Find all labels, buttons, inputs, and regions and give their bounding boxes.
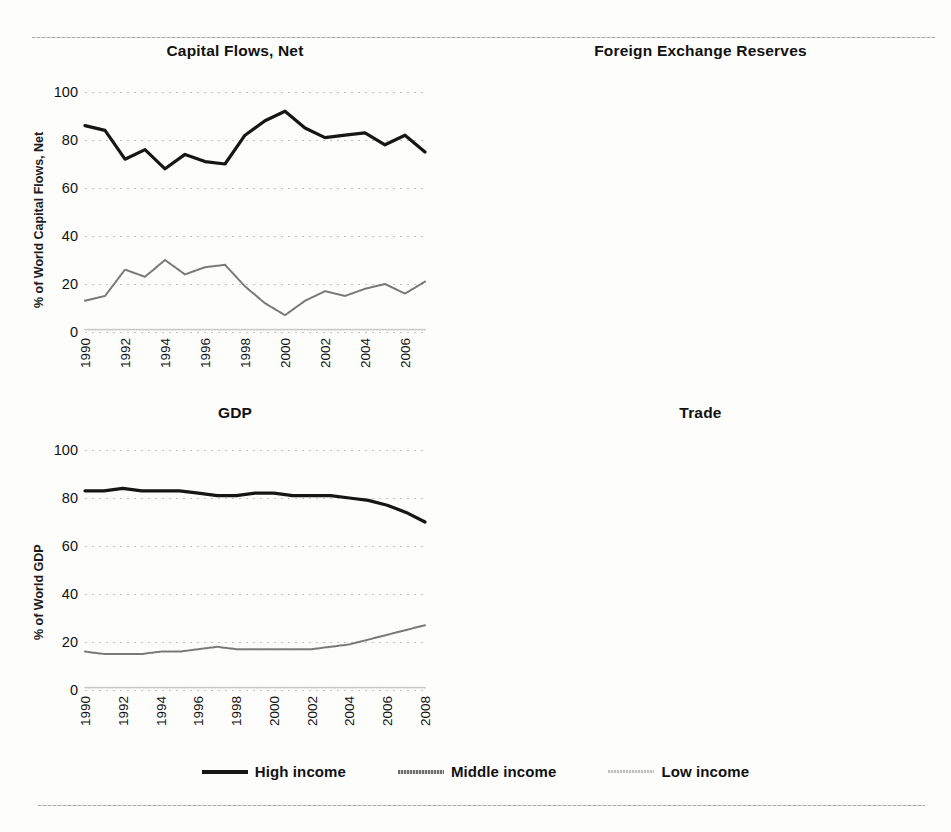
series-line-high-income xyxy=(85,488,425,522)
x-axis-tick-label: 1996 xyxy=(191,696,206,726)
legend-swatch-line-icon xyxy=(202,770,248,774)
x-axis-tick-label: 1990 xyxy=(78,696,93,726)
chart-title: Capital Flows, Net xyxy=(0,42,470,60)
gridline xyxy=(85,332,425,333)
x-axis-tick-label: 2004 xyxy=(358,338,373,368)
x-axis-tick-label: 1994 xyxy=(158,338,173,368)
legend-item-middle-income[interactable]: Middle income xyxy=(398,763,556,780)
y-axis-tick-label: 60 xyxy=(62,180,78,196)
plot-canvas: 0204060801001990199219941996199820002002… xyxy=(85,450,425,690)
figure-root: Capital Flows, Net % of World Capital Fl… xyxy=(0,0,951,832)
y-axis-tick-label: 40 xyxy=(62,586,78,602)
x-axis-tick-label: 2006 xyxy=(398,338,413,368)
plot-area: 0204060801001990199219941996199820002002… xyxy=(85,450,425,690)
y-axis-tick-label: 60 xyxy=(62,538,78,554)
legend-label: High income xyxy=(255,763,346,780)
top-divider-rule xyxy=(32,37,935,38)
y-axis-tick-label: 100 xyxy=(54,84,78,100)
x-axis-tick-label: 1992 xyxy=(115,696,130,726)
series-line-middle-income xyxy=(85,625,425,654)
y-axis-tick-label: 100 xyxy=(54,442,78,458)
y-axis-label: % of World GDP xyxy=(32,544,46,640)
plot-canvas: 0204060801001990199219941996199820002002… xyxy=(85,92,425,332)
x-axis-tick-label: 1994 xyxy=(153,696,168,726)
x-axis-tick-label: 2000 xyxy=(266,696,281,726)
chart-panel-gdp: GDP % of World GDP 020406080100199019921… xyxy=(0,402,470,752)
y-axis-tick-label: 80 xyxy=(62,490,78,506)
chart-title: GDP xyxy=(0,404,470,422)
chart-panel-fx-reserves: Foreign Exchange Reserves % of World Res… xyxy=(470,40,951,405)
x-axis-tick-label: 1998 xyxy=(238,338,253,368)
chart-legend: High income Middle income Low income xyxy=(0,763,951,780)
x-axis-tick-label: 1992 xyxy=(118,338,133,368)
x-axis-tick-label: 2004 xyxy=(342,696,357,726)
series-layer xyxy=(85,92,425,332)
series-line-middle-income xyxy=(85,260,425,315)
legend-label: Middle income xyxy=(451,763,556,780)
y-axis-tick-label: 20 xyxy=(62,634,78,650)
gridline xyxy=(85,690,425,691)
series-line-high-income xyxy=(85,111,425,169)
x-axis-tick-label: 1998 xyxy=(229,696,244,726)
chart-grid: Capital Flows, Net % of World Capital Fl… xyxy=(0,40,951,755)
x-axis-tick-label: 1996 xyxy=(198,338,213,368)
y-axis-tick-label: 40 xyxy=(62,228,78,244)
plot-area: 0204060801001990199219941996199820002002… xyxy=(85,92,425,332)
bottom-divider-rule xyxy=(38,805,925,806)
chart-panel-capital-flows: Capital Flows, Net % of World Capital Fl… xyxy=(0,40,470,405)
x-axis-tick-label: 2002 xyxy=(304,696,319,726)
x-axis-tick-label: 1990 xyxy=(78,338,93,368)
chart-title: Trade xyxy=(460,404,941,422)
y-axis-label: % of World Capital Flows, Net xyxy=(32,132,46,308)
legend-swatch-line-icon xyxy=(398,770,444,774)
y-axis-tick-label: 80 xyxy=(62,132,78,148)
x-axis-tick-label: 2006 xyxy=(380,696,395,726)
chart-panel-trade: Trade % of World Trade 02040608010019901… xyxy=(470,402,951,752)
series-layer xyxy=(85,450,425,690)
chart-title: Foreign Exchange Reserves xyxy=(460,42,941,60)
x-axis-tick-label: 2000 xyxy=(278,338,293,368)
legend-item-low-income[interactable]: Low income xyxy=(608,763,749,780)
legend-item-high-income[interactable]: High income xyxy=(202,763,346,780)
legend-label: Low income xyxy=(661,763,749,780)
x-axis-tick-label: 2008 xyxy=(418,696,433,726)
legend-swatch-line-icon xyxy=(608,770,654,773)
y-axis-tick-label: 20 xyxy=(62,276,78,292)
x-axis-tick-label: 2002 xyxy=(318,338,333,368)
